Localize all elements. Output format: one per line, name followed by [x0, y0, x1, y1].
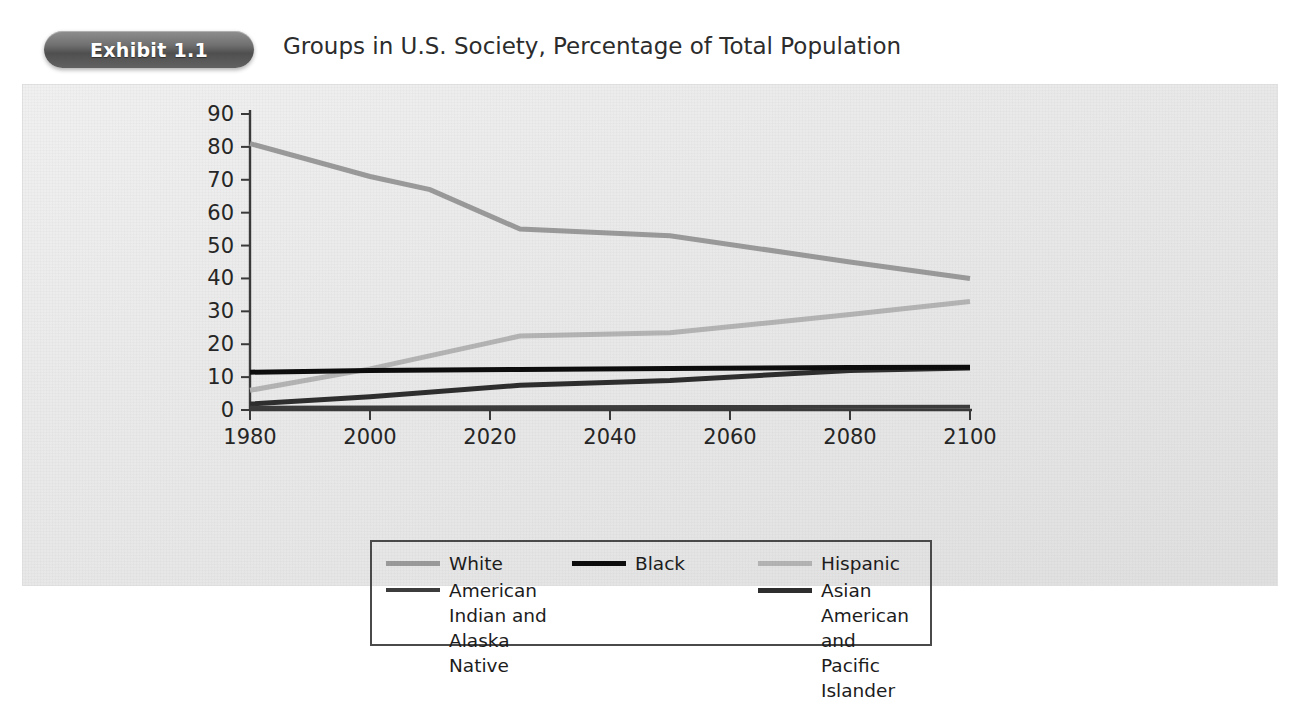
- x-tick-label: 2020: [463, 425, 516, 449]
- legend-item-american-indian-and[interactable]: American Indian and Alaska Native: [386, 578, 572, 701]
- plot-area: 0102030405060708090 19802000202020402060…: [22, 84, 1278, 586]
- series-line-american-indian-and: [250, 407, 970, 408]
- legend-swatch-hispanic: [758, 561, 812, 566]
- y-tick-label: 70: [207, 168, 234, 192]
- legend-label-black: Black: [635, 551, 685, 576]
- legend-label-asian-american-and: Asian American and Pacific Islander: [821, 578, 920, 701]
- y-tick-label: 80: [207, 135, 234, 159]
- legend-swatch-white: [386, 561, 440, 566]
- chart-panel: 0102030405060708090 19802000202020402060…: [22, 84, 1278, 586]
- legend-swatch-american-indian-and: [386, 588, 440, 592]
- y-tick-label: 90: [207, 102, 234, 126]
- legend-item-black[interactable]: Black: [572, 551, 758, 576]
- x-axis-ticks: 1980200020202040206020802100: [223, 410, 996, 449]
- x-tick-label: 2080: [823, 425, 876, 449]
- legend-grid: WhiteBlackHispanicAmerican Indian and Al…: [386, 551, 920, 701]
- legend-label-hispanic: Hispanic: [821, 551, 900, 576]
- legend-label-american-indian-and: American Indian and Alaska Native: [449, 578, 572, 678]
- exhibit-badge-label: Exhibit 1.1: [90, 39, 208, 61]
- page-title: Groups in U.S. Society, Percentage of To…: [283, 33, 901, 59]
- y-tick-label: 0: [221, 398, 234, 422]
- legend-item-asian-american-and[interactable]: Asian American and Pacific Islander: [758, 578, 920, 701]
- x-tick-label: 1980: [223, 425, 276, 449]
- y-tick-label: 40: [207, 266, 234, 290]
- legend-swatch-asian-american-and: [758, 588, 812, 593]
- exhibit-header: Exhibit 1.1 Groups in U.S. Society, Perc…: [0, 0, 1300, 84]
- x-tick-label: 2100: [943, 425, 996, 449]
- y-tick-label: 30: [207, 299, 234, 323]
- series-line-hispanic: [250, 302, 970, 391]
- series-line-white: [250, 144, 970, 279]
- line-chart: 0102030405060708090 19802000202020402060…: [22, 84, 1278, 586]
- y-tick-label: 20: [207, 332, 234, 356]
- exhibit-badge: Exhibit 1.1: [44, 31, 254, 68]
- legend-label-white: White: [449, 551, 503, 576]
- x-tick-label: 2040: [583, 425, 636, 449]
- chart-legend: WhiteBlackHispanicAmerican Indian and Al…: [370, 540, 932, 646]
- x-tick-label: 2000: [343, 425, 396, 449]
- legend-swatch-black: [572, 561, 626, 566]
- y-tick-label: 10: [207, 365, 234, 389]
- series-lines: [250, 144, 970, 408]
- x-tick-label: 2060: [703, 425, 756, 449]
- y-tick-label: 50: [207, 234, 234, 258]
- y-axis-ticks: 0102030405060708090: [207, 102, 250, 422]
- legend-item-hispanic[interactable]: Hispanic: [758, 551, 920, 576]
- legend-item-white[interactable]: White: [386, 551, 572, 576]
- y-tick-label: 60: [207, 201, 234, 225]
